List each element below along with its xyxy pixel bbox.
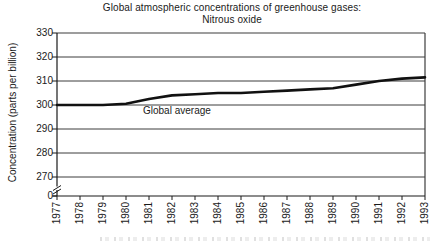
y-tick-label: 310 — [20, 75, 53, 87]
chart: Global atmospheric concentrations of gre… — [0, 0, 434, 244]
y-tick-label: 0 — [20, 190, 53, 202]
x-tick-label: 1990 — [350, 202, 362, 232]
x-tick-label: 1983 — [189, 202, 201, 232]
x-tick-label: 1986 — [258, 202, 270, 232]
y-tick-label: 300 — [20, 99, 53, 111]
x-tick-label: 1993 — [419, 202, 431, 232]
y-tick-label: 280 — [20, 147, 53, 159]
y-tick-label: 290 — [20, 123, 53, 135]
x-tick-label: 1992 — [396, 202, 408, 232]
x-tick-label: 1982 — [166, 202, 178, 232]
x-tick-label: 1978 — [74, 202, 86, 232]
x-tick-label: 1980 — [120, 202, 132, 232]
x-tick-label: 1989 — [327, 202, 339, 232]
x-tick-label: 1985 — [235, 202, 247, 232]
x-tick-label: 1977 — [51, 202, 63, 232]
y-tick-label: 320 — [20, 51, 53, 63]
x-tick-label: 1981 — [143, 202, 155, 232]
x-tick-label: 1991 — [373, 202, 385, 232]
x-tick-label: 1988 — [304, 202, 316, 232]
y-tick-label: 270 — [20, 171, 53, 183]
x-tick-label: 1979 — [97, 202, 109, 232]
data-line-global-average — [57, 77, 425, 105]
series-inline-label: Global average — [143, 105, 211, 116]
x-tick-label: 1984 — [212, 202, 224, 232]
y-tick-label: 330 — [20, 27, 53, 39]
x-tick-label: 1987 — [281, 202, 293, 232]
scan-artifact-smudge — [100, 237, 430, 241]
